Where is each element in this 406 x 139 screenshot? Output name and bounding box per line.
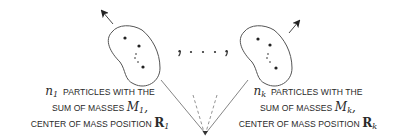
- line3-text: CENTER OF MASS POSITION: [31, 119, 152, 129]
- particle-dot: [123, 36, 126, 39]
- ellipsis-dot: [266, 57, 268, 59]
- group-1-line1: n1 PARTICLES WITH THE: [14, 84, 186, 100]
- line2-text: SUM OF MASSES: [260, 103, 332, 113]
- ellipsis-dot: [134, 57, 136, 59]
- particle-dot: [137, 44, 140, 47]
- position-symbol: Rk: [362, 116, 377, 130]
- ellipsis-dot: [137, 61, 139, 63]
- line2-text: SUM OF MASSES: [52, 103, 124, 113]
- particle-dot: [256, 37, 259, 40]
- velocity-arrow-icon: [102, 11, 113, 24]
- diagram-canvas: n1 PARTICLES WITH THE SUM OF MASSES M1, …: [0, 0, 406, 139]
- group-k-line1: nk PARTICLES WITH THE: [222, 84, 394, 100]
- group-separator: [178, 50, 227, 56]
- particle-group-k-blob: [240, 26, 292, 86]
- count-symbol: nk: [253, 84, 266, 98]
- group-k-line3: CENTER OF MASS POSITION Rk: [222, 116, 394, 132]
- mass-symbol: M1: [127, 100, 144, 114]
- line3-text: CENTER OF MASS POSITION: [239, 119, 360, 129]
- mass-suffix: ,: [352, 100, 356, 114]
- mass-suffix: ,: [144, 100, 148, 114]
- group-1-label: n1 PARTICLES WITH THE SUM OF MASSES M1, …: [14, 84, 186, 132]
- position-symbol: R1: [154, 116, 169, 130]
- mass-symbol: Mk: [335, 100, 352, 114]
- group-k-label: nk PARTICLES WITH THE SUM OF MASSES Mk, …: [222, 84, 394, 132]
- particle-dot: [268, 43, 271, 46]
- count-symbol: n1: [45, 84, 58, 98]
- line1-text: PARTICLES WITH THE: [63, 87, 155, 97]
- origin-point-icon: [203, 131, 209, 136]
- velocity-arrow-icon: [289, 21, 299, 33]
- ellipsis-dot: [135, 53, 137, 55]
- particle-dot: [141, 65, 144, 68]
- particle-group-1-blob: [108, 26, 160, 86]
- ellipsis-dot: [267, 53, 269, 55]
- ellipsis-dot: [269, 61, 271, 63]
- group-1-line3: CENTER OF MASS POSITION R1: [14, 116, 186, 132]
- particle-dot: [274, 66, 277, 69]
- group-k-line2: SUM OF MASSES Mk,: [222, 100, 394, 116]
- group-1-line2: SUM OF MASSES M1,: [14, 100, 186, 116]
- line1-text: PARTICLES WITH THE: [271, 87, 363, 97]
